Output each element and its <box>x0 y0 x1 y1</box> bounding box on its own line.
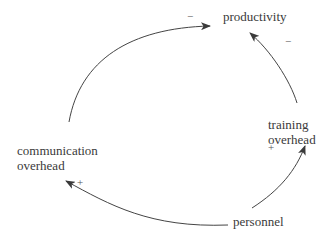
polarity-comm-to-productivity: − <box>187 11 193 22</box>
node-comm-label-line1: communication <box>17 143 98 158</box>
causal-loop-diagram: productivity training overhead communica… <box>0 0 334 238</box>
polarity-personnel-to-training: + <box>268 142 274 153</box>
node-productivity-label: productivity <box>223 9 287 24</box>
node-training-label-line2: overhead <box>268 132 316 147</box>
node-training-overhead: training overhead <box>268 117 316 147</box>
node-personnel-label: personnel <box>233 214 284 229</box>
node-productivity: productivity <box>223 9 287 24</box>
polarity-personnel-to-comm: + <box>77 177 83 188</box>
arrow-personnel-to-comm <box>66 181 228 225</box>
node-comm-label-line2: overhead <box>17 158 98 173</box>
arrow-personnel-to-training <box>252 146 305 208</box>
polarity-training-to-productivity: − <box>285 36 291 47</box>
node-communication-overhead: communication overhead <box>17 143 98 173</box>
arrow-comm-to-productivity <box>69 26 210 122</box>
node-training-label-line1: training <box>268 117 316 132</box>
node-personnel: personnel <box>233 214 284 229</box>
